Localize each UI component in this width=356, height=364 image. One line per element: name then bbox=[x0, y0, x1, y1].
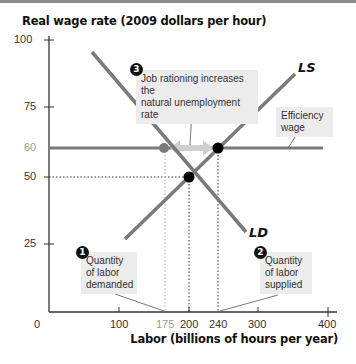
note-efficiency-wage: Efficiency wage bbox=[276, 107, 333, 137]
ew-leader bbox=[288, 137, 295, 148]
y-tick-100: 100 bbox=[14, 33, 32, 45]
x-tick-300: 300 bbox=[248, 318, 266, 330]
y-tick-60: 60 bbox=[24, 141, 36, 153]
x-axis-label: Labor (billions of hours per year) bbox=[130, 332, 338, 346]
unemployment-gap-arrow bbox=[170, 140, 213, 156]
x-tick-100: 100 bbox=[110, 318, 128, 330]
x-tick-200: 200 bbox=[180, 318, 198, 330]
badge-3: 3 bbox=[130, 63, 143, 76]
ld-label: LD bbox=[249, 225, 268, 240]
badge-2: 2 bbox=[254, 246, 267, 259]
chart-canvas bbox=[0, 0, 356, 364]
x-tick-240: 240 bbox=[209, 318, 227, 330]
note1-leader bbox=[115, 294, 164, 311]
badge-1: 1 bbox=[76, 246, 89, 259]
note-job-rationing: Job rationing increases the natural unem… bbox=[136, 70, 258, 124]
ls-label: LS bbox=[298, 60, 316, 75]
x-tick-0: 0 bbox=[34, 318, 40, 330]
y-tick-25: 25 bbox=[24, 237, 36, 249]
x-tick-175: 175 bbox=[156, 318, 174, 330]
y-axis-label: Real wage rate (2009 dollars per hour) bbox=[22, 14, 266, 28]
point-equilibrium bbox=[184, 172, 195, 183]
point-supplied bbox=[213, 143, 224, 154]
y-tick-50: 50 bbox=[24, 170, 36, 182]
note-quantity-demanded: Quantity of labor demanded bbox=[81, 252, 137, 294]
note2-leader bbox=[220, 295, 278, 311]
point-demanded bbox=[159, 143, 169, 153]
y-tick-75: 75 bbox=[24, 100, 36, 112]
note-quantity-supplied: Quantity of labor supplied bbox=[260, 252, 312, 294]
x-tick-400: 400 bbox=[318, 318, 336, 330]
